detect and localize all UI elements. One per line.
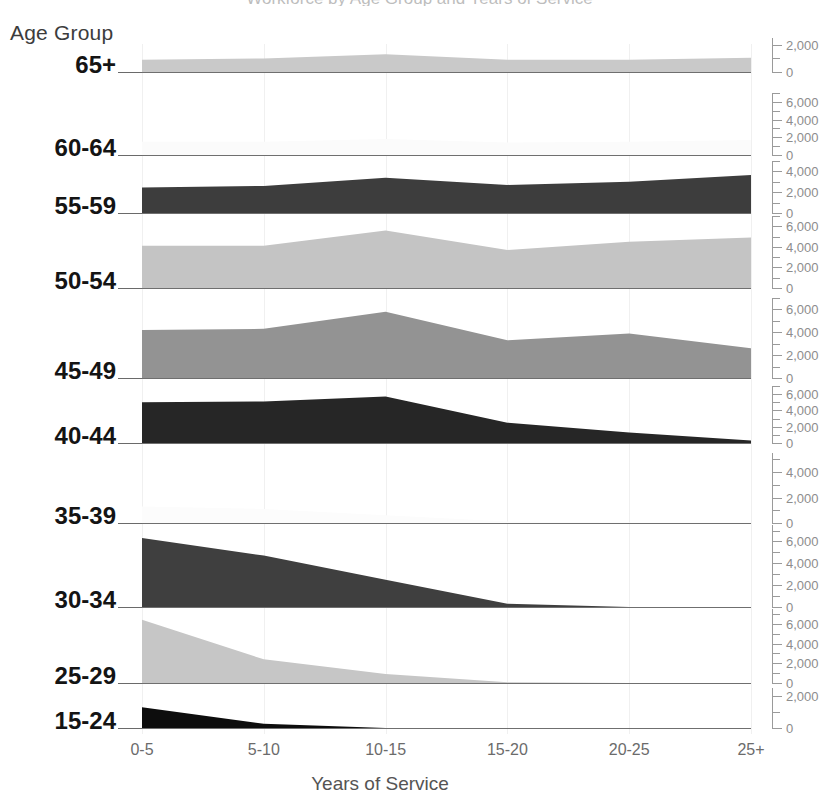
axis-tick-major [772, 394, 782, 395]
axis-tick-label: 6,000 [786, 618, 819, 631]
axis-tick-label: 6,000 [786, 96, 819, 109]
axis-tick-label: 2,000 [786, 261, 819, 274]
panel-baseline [142, 683, 751, 684]
axis-tick-label: 2,000 [786, 579, 819, 592]
axis-tick-major [772, 120, 782, 121]
axis-spine [772, 161, 773, 213]
axis-tick-major [772, 472, 782, 473]
axis-tick-label: 4,000 [786, 466, 819, 479]
area-plot [142, 298, 751, 378]
axis-tick-major [772, 498, 782, 499]
axis-tick-major [772, 155, 782, 156]
area-plot [142, 216, 751, 288]
area-fill [142, 175, 751, 213]
axis-tick-label: 2,000 [786, 186, 819, 199]
axis-tick-major [772, 137, 782, 138]
axis-tick-major [772, 541, 782, 542]
axis-tick-major [772, 226, 782, 227]
x-tick-label: 0-5 [130, 741, 153, 759]
area-plot [142, 38, 751, 72]
axis-tick-label: 2,000 [786, 39, 819, 52]
axis-tick-minor [772, 58, 780, 59]
axis-tick-label: 2,000 [786, 492, 819, 505]
area-fill [142, 397, 751, 443]
axis-tick-minor [772, 298, 780, 299]
y-category-tick [118, 728, 142, 729]
axis-tick-label: 6,000 [786, 220, 819, 233]
area-fill [142, 506, 751, 523]
y-category-label: 35-39 [0, 502, 116, 530]
axis-tick-major [772, 213, 782, 214]
series-panel [142, 161, 751, 213]
axis-tick-major [772, 728, 782, 729]
axis-tick-minor [772, 459, 780, 460]
axis-tick-minor [772, 614, 780, 615]
axis-tick-major [772, 443, 782, 444]
axis-tick-label: 2,000 [786, 131, 819, 144]
axis-tick-label: 4,000 [786, 638, 819, 651]
axis-tick-label: 0 [786, 66, 793, 79]
axis-tick-label: 6,000 [786, 535, 819, 548]
axis-tick-minor [772, 673, 780, 674]
axis-tick-major [772, 309, 782, 310]
axis-tick-label: 4,000 [786, 114, 819, 127]
axis-tick-minor [772, 146, 780, 147]
axis-tick-minor [772, 257, 780, 258]
axis-tick-label: 4,000 [786, 241, 819, 254]
axis-tick-major [772, 563, 782, 564]
axis-tick-minor [772, 128, 780, 129]
panel-baseline [142, 288, 751, 289]
value-axis: 02,0004,0006,000 [772, 386, 832, 443]
value-axis: 02,0004,0006,000 [772, 525, 832, 607]
area-plot [142, 93, 751, 155]
axis-tick-label: 0 [786, 372, 793, 385]
axis-tick-label: 6,000 [786, 303, 819, 316]
area-plot [142, 609, 751, 683]
axis-tick-minor [772, 182, 780, 183]
axis-tick-minor [772, 367, 780, 368]
axis-tick-minor [772, 485, 780, 486]
series-panel [142, 609, 751, 683]
axis-tick-minor [772, 237, 780, 238]
axis-tick-major [772, 696, 782, 697]
axis-tick-major [772, 663, 782, 664]
y-category-label: 15-24 [0, 707, 116, 735]
value-axis: 02,0004,000 [772, 161, 832, 213]
y-category-label: 45-49 [0, 357, 116, 385]
axis-tick-minor [772, 574, 780, 575]
y-category-tick [118, 443, 142, 444]
value-axis: 02,000 [772, 688, 832, 728]
axis-tick-major [772, 523, 782, 524]
series-panel [142, 38, 751, 72]
area-fill [142, 139, 751, 155]
axis-tick-major [772, 355, 782, 356]
axis-tick-major [772, 427, 782, 428]
axis-tick-label: 4,000 [786, 326, 819, 339]
axis-tick-minor [772, 653, 780, 654]
y-axis-title: Age Group [10, 21, 113, 45]
axis-tick-minor [772, 321, 780, 322]
y-category-tick [118, 523, 142, 524]
area-plot [142, 525, 751, 607]
area-fill [142, 538, 751, 607]
y-category-label: 30-34 [0, 586, 116, 614]
axis-tick-major [772, 45, 782, 46]
x-tick-label: 15-20 [487, 741, 528, 759]
chart-title: Workforce by Age Group and Years of Serv… [0, 0, 839, 6]
x-tick-label: 10-15 [365, 741, 406, 759]
axis-tick-minor [772, 419, 780, 420]
axis-tick-minor [772, 634, 780, 635]
axis-tick-minor [772, 344, 780, 345]
axis-tick-major [772, 267, 782, 268]
axis-tick-label: 0 [786, 437, 793, 450]
axis-tick-major [772, 192, 782, 193]
axis-tick-major [772, 410, 782, 411]
series-panel [142, 216, 751, 288]
axis-tick-minor [772, 203, 780, 204]
value-axis: 02,0004,0006,000 [772, 609, 832, 683]
axis-tick-major [772, 585, 782, 586]
y-category-tick [118, 607, 142, 608]
panel-baseline [142, 728, 751, 729]
y-category-label: 65+ [0, 51, 116, 79]
value-axis: 02,0004,0006,000 [772, 298, 832, 378]
